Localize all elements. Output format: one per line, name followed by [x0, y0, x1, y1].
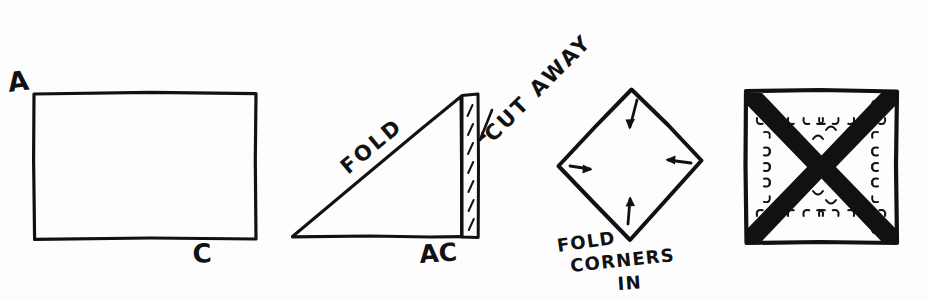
panel-square-finished [0, 0, 928, 301]
drawing-sheet: A C FOLD [0, 0, 928, 301]
